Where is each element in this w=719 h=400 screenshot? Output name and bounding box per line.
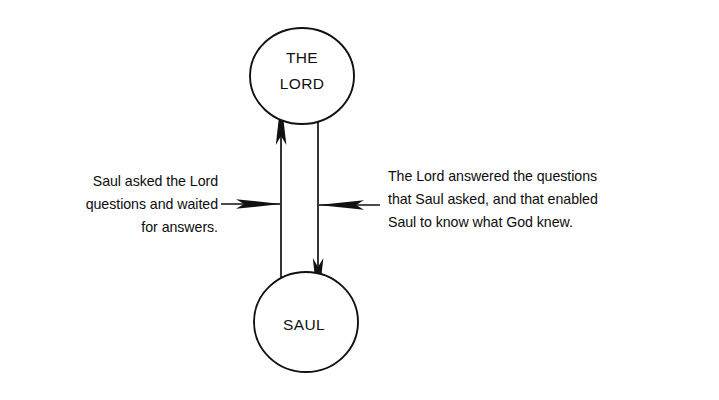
node-the-lord[interactable]: THE LORD	[250, 28, 354, 124]
right-annotation-pointer	[318, 200, 380, 210]
diagram-canvas: THE LORD SAUL Saul asked the Lord questi…	[0, 0, 719, 400]
diagram-figure: THE LORD SAUL Saul asked the Lord questi…	[0, 0, 719, 400]
node-saul-label: SAUL	[283, 316, 325, 333]
left-annotation: Saul asked the Lord questions and waited…	[86, 173, 281, 235]
node-the-lord-label-line1: THE	[286, 49, 318, 66]
node-saul[interactable]: SAUL	[254, 272, 358, 372]
left-annotation-line-3: for answers.	[141, 219, 218, 235]
left-annotation-line-1: Saul asked the Lord	[93, 173, 218, 189]
left-annotation-pointer	[221, 199, 281, 209]
right-annotation-line-2: that Saul asked, and that enabled	[388, 191, 598, 207]
left-annotation-line-2: questions and waited	[86, 196, 218, 212]
right-annotation: The Lord answered the questions that Sau…	[318, 168, 598, 230]
edge-saul-to-the-lord	[276, 99, 287, 305]
node-the-lord-label-line2: LORD	[280, 75, 325, 92]
right-annotation-line-1: The Lord answered the questions	[388, 168, 597, 184]
right-annotation-line-3: Saul to know what God knew.	[388, 214, 573, 230]
